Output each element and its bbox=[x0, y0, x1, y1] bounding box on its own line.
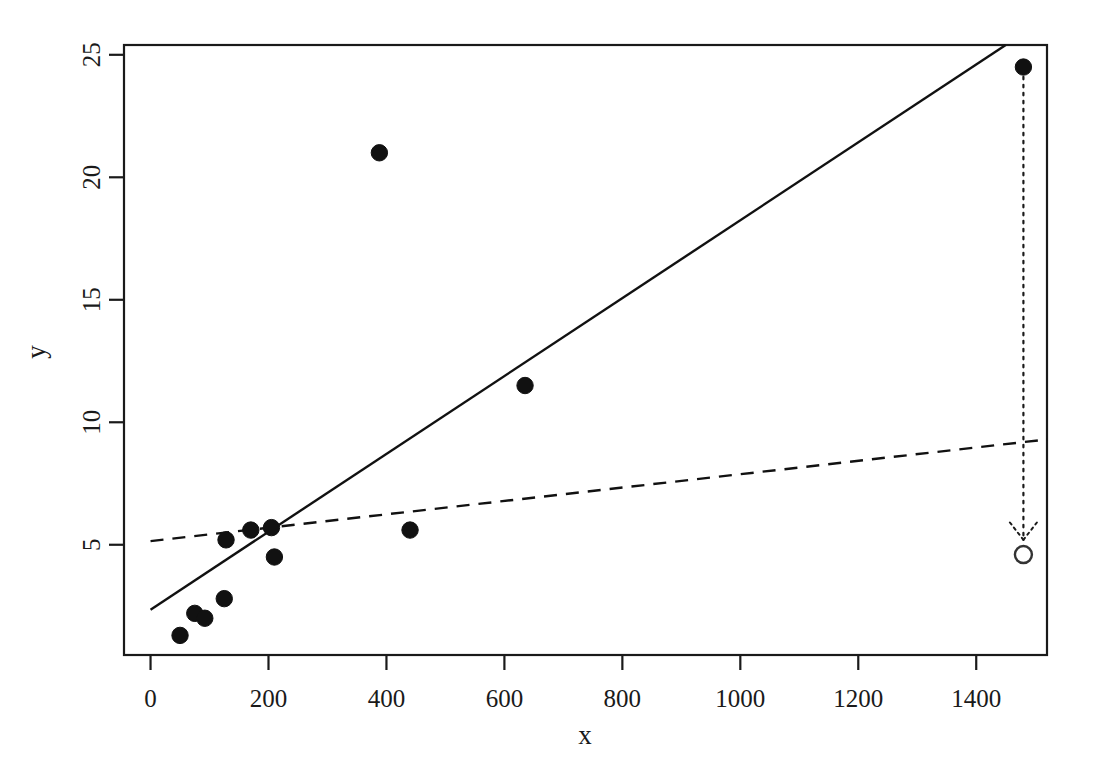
y-tick-label: 25 bbox=[79, 42, 106, 67]
y-tick-label: 20 bbox=[79, 165, 106, 190]
x-axis-label: x bbox=[578, 720, 592, 750]
x-tick-label: 0 bbox=[144, 685, 157, 712]
y-tick-label: 5 bbox=[79, 539, 106, 552]
y-axis-label: y bbox=[21, 345, 51, 359]
x-tick-label: 600 bbox=[486, 685, 524, 712]
x-tick-label: 1400 bbox=[951, 685, 1001, 712]
x-tick-label: 400 bbox=[368, 685, 406, 712]
x-tick-label: 1200 bbox=[833, 685, 883, 712]
data-point-filled bbox=[1015, 59, 1031, 75]
data-point-filled bbox=[517, 377, 533, 393]
data-point-filled bbox=[216, 590, 232, 606]
data-point-filled bbox=[172, 627, 188, 643]
data-point-filled bbox=[371, 145, 387, 161]
data-point-filled bbox=[263, 519, 279, 535]
data-point-filled bbox=[197, 610, 213, 626]
x-tick-label: 200 bbox=[250, 685, 288, 712]
y-tick-label: 10 bbox=[79, 410, 106, 435]
x-tick-label: 1000 bbox=[715, 685, 765, 712]
data-point-filled bbox=[218, 532, 234, 548]
figure-canvas: 0200400600800100012001400 510152025 x y bbox=[0, 0, 1096, 777]
data-point-filled bbox=[243, 522, 259, 538]
y-tick-label: 15 bbox=[79, 287, 106, 312]
data-point-filled bbox=[266, 549, 282, 565]
x-tick-label: 800 bbox=[604, 685, 642, 712]
data-point-filled bbox=[402, 522, 418, 538]
plot-background bbox=[0, 0, 1096, 777]
scatter-plot: 0200400600800100012001400 510152025 x y bbox=[0, 0, 1096, 777]
